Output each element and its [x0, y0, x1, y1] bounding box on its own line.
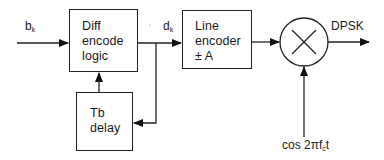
tb-delay-label: Tb delay: [90, 106, 120, 136]
dpsk-output-label: DPSK: [331, 19, 364, 33]
line-encoder-label: Line encoder ± A: [195, 19, 241, 64]
signal-base: cos 2πf: [282, 138, 322, 152]
diff-encode-logic-label: Diff encode logic: [82, 19, 124, 64]
label-line: encoder: [195, 34, 241, 49]
label-line: Line: [195, 19, 241, 34]
signal-base: d: [163, 19, 170, 33]
label-line: logic: [82, 49, 124, 64]
carrier-signal-label: cos 2πfct: [282, 138, 329, 152]
tb-delay-block: Tb delay: [76, 92, 133, 151]
label-line: Diff: [82, 19, 124, 34]
multiplier-icon: [280, 18, 328, 66]
label-line: encode: [82, 34, 124, 49]
label-line: ± A: [195, 49, 241, 64]
signal-suffix: t: [326, 138, 329, 152]
signal-base: b: [25, 19, 32, 33]
line-encoder-block: Line encoder ± A: [182, 10, 252, 69]
encoded-signal-label: dk: [163, 19, 173, 33]
label-line: Tb: [90, 106, 120, 121]
signal-subscript: k: [170, 26, 174, 33]
diff-encode-logic-block: Diff encode logic: [69, 9, 138, 72]
label-line: delay: [90, 121, 120, 136]
input-signal-label: bk: [25, 19, 35, 33]
signal-subscript: k: [32, 26, 36, 33]
